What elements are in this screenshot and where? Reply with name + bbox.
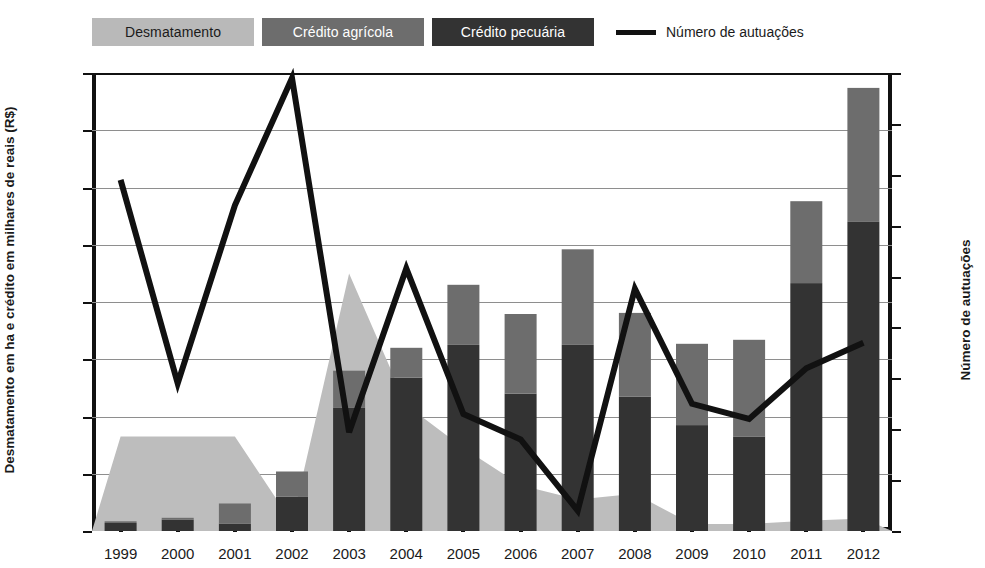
legend-swatch-credito-pecuaria: Crédito pecuária [432, 18, 594, 46]
y-axis-right-tick [892, 226, 901, 228]
legend-line-icon [616, 30, 656, 35]
y-axis-right-tick [892, 73, 901, 75]
y-axis-right-tick [892, 429, 901, 431]
y-axis-right-title: Número de autuações [958, 180, 973, 440]
y-axis-left-tick [83, 359, 92, 361]
y-axis-right-tick [892, 124, 901, 126]
y-axis-right-tick [892, 277, 901, 279]
y-axis-left-tick [83, 417, 92, 419]
legend-swatch-desmatamento: Desmatamento [92, 18, 254, 46]
bar-credito-pecuaria-2000 [162, 520, 194, 531]
bar-credito-pecuaria-2006 [505, 394, 537, 531]
bar-credito-agricola-2002 [276, 472, 308, 497]
y-axis-left-tick [83, 302, 92, 304]
bar-credito-agricola-2011 [790, 201, 822, 283]
x-axis-label-2012: 2012 [828, 545, 898, 562]
bar-credito-agricola-1999 [105, 521, 137, 523]
bar-credito-pecuaria-1999 [105, 523, 137, 531]
y-axis-left-tick [83, 531, 92, 533]
y-axis-right-tick [892, 480, 901, 482]
y-axis-right-tick [892, 327, 901, 329]
bar-credito-agricola-2004 [390, 348, 422, 378]
chart-container: Desmatamento Crédito agrícola Crédito pe… [0, 0, 985, 568]
bar-credito-agricola-2007 [562, 249, 594, 345]
bar-credito-agricola-2012 [847, 88, 879, 222]
y-axis-left-tick [83, 474, 92, 476]
legend-item-credito-pecuaria[interactable]: Crédito pecuária [424, 18, 594, 46]
bar-credito-pecuaria-2004 [390, 378, 422, 531]
bar-credito-pecuaria-2012 [847, 222, 879, 531]
legend-item-numero-autuacoes[interactable]: Número de autuações [616, 24, 804, 40]
y-axis-left-tick [83, 245, 92, 247]
bar-credito-agricola-2001 [219, 504, 251, 524]
y-axis-right-tick [892, 531, 901, 533]
y-axis-left-tick [83, 188, 92, 190]
legend-label-numero-autuacoes: Número de autuações [666, 24, 804, 40]
bar-credito-pecuaria-2001 [219, 524, 251, 531]
bar-credito-pecuaria-2005 [447, 345, 479, 531]
y-axis-left-title: Desmatamento em ha e crédito em milhares… [2, 80, 17, 500]
plot-area: 010.00020.00030.00040.00050.00060.00070.… [92, 73, 892, 531]
bar-credito-pecuaria-2011 [790, 283, 822, 531]
legend-item-credito-agricola[interactable]: Crédito agrícola [254, 18, 424, 46]
bar-credito-pecuaria-2008 [619, 397, 651, 532]
bar-credito-pecuaria-2010 [733, 437, 765, 532]
bar-credito-agricola-2006 [505, 314, 537, 394]
legend-item-desmatamento[interactable]: Desmatamento [92, 18, 254, 46]
bar-credito-agricola-2000 [162, 518, 194, 520]
legend-swatch-credito-agricola: Crédito agrícola [262, 18, 424, 46]
y-axis-right-tick [892, 378, 901, 380]
bar-credito-agricola-2005 [447, 285, 479, 345]
y-axis-right-tick [892, 175, 901, 177]
y-axis-left-tick [83, 73, 92, 75]
y-axis-left-tick [83, 130, 92, 132]
chart-svg-layer [92, 73, 892, 531]
bar-credito-pecuaria-2002 [276, 497, 308, 531]
bar-credito-pecuaria-2009 [676, 425, 708, 531]
chart-legend: Desmatamento Crédito agrícola Crédito pe… [92, 18, 804, 46]
